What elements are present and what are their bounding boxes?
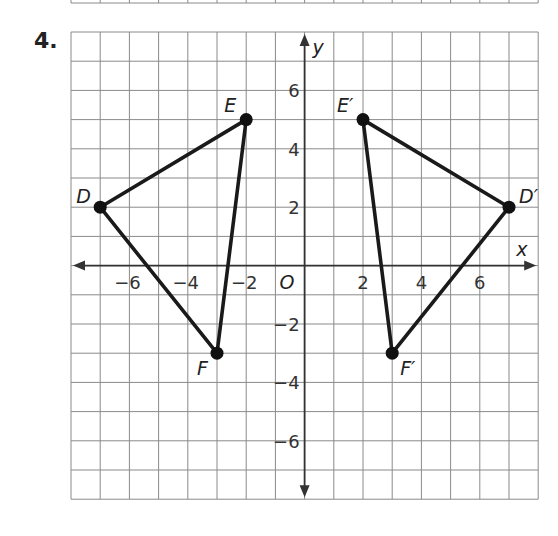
- previous-grid-fragment: [71, 0, 538, 3]
- point-marker: [503, 201, 516, 214]
- y-axis-up-arrow-icon: [300, 34, 310, 46]
- y-tick-label: 2: [288, 197, 299, 218]
- point-label: E: [224, 94, 236, 116]
- y-tick-label: 4: [288, 139, 299, 160]
- point-label: D: [76, 185, 91, 207]
- point-label: D′: [519, 185, 539, 207]
- point-marker: [94, 201, 107, 214]
- axes: [73, 34, 536, 497]
- y-tick-label: −4: [273, 372, 300, 393]
- y-axis-label: y: [312, 36, 325, 58]
- point-marker: [240, 113, 253, 126]
- x-tick-label: 4: [416, 272, 427, 293]
- x-axis-right-arrow-icon: [524, 261, 536, 271]
- x-tick-label: −4: [173, 272, 200, 293]
- x-tick-label: −2: [231, 272, 258, 293]
- point-label: F′: [400, 357, 416, 379]
- point-label: F: [197, 357, 209, 379]
- x-tick-label: 6: [474, 272, 485, 293]
- y-axis-down-arrow-icon: [300, 485, 310, 497]
- x-tick-label: 2: [357, 272, 368, 293]
- y-tick-label: −6: [273, 431, 300, 452]
- y-tick-label: −2: [273, 314, 300, 335]
- point-marker: [211, 347, 224, 360]
- coordinate-plane: yxO−6−4−2246642−2−4−6DEFD′E′F′: [0, 0, 558, 536]
- point-marker: [357, 113, 370, 126]
- x-axis-label: x: [515, 238, 528, 260]
- y-tick-label: 6: [288, 80, 299, 101]
- origin-label: O: [280, 271, 295, 293]
- x-tick-label: −6: [114, 272, 141, 293]
- point-label: E′: [337, 94, 354, 116]
- x-axis-left-arrow-icon: [73, 261, 85, 271]
- point-marker: [386, 347, 399, 360]
- labels: yxO−6−4−2246642−2−4−6DEFD′E′F′: [76, 36, 538, 452]
